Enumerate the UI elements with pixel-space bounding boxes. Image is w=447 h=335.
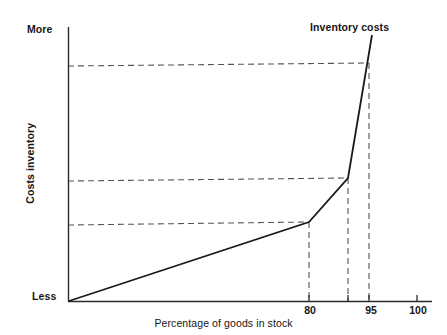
vertical-guide-lines [309,63,369,301]
x-axis-ticks [309,295,417,301]
inventory-costs-curve [69,35,372,301]
guide-line-horizontal-high [68,63,369,66]
series-annotation-inventory-costs: Inventory costs [310,22,389,33]
chart-plot-area [0,0,447,335]
inventory-costs-chart: More Less Inventory costs Costs inventor… [0,0,447,335]
x-axis-title: Percentage of goods in stock [0,318,447,329]
chart-axes [68,27,432,302]
y-axis-label-more: More [27,24,53,35]
guide-line-horizontal-low [68,222,309,225]
x-tick-label-80: 80 [295,305,325,316]
x-tick-label-100: 100 [400,305,436,316]
y-axis-label-less: Less [32,291,56,302]
guide-line-horizontal-mid [68,178,348,181]
y-axis-title: Costs inventory [25,113,36,213]
x-tick-label-95: 95 [356,305,386,316]
horizontal-guide-lines [68,63,369,225]
